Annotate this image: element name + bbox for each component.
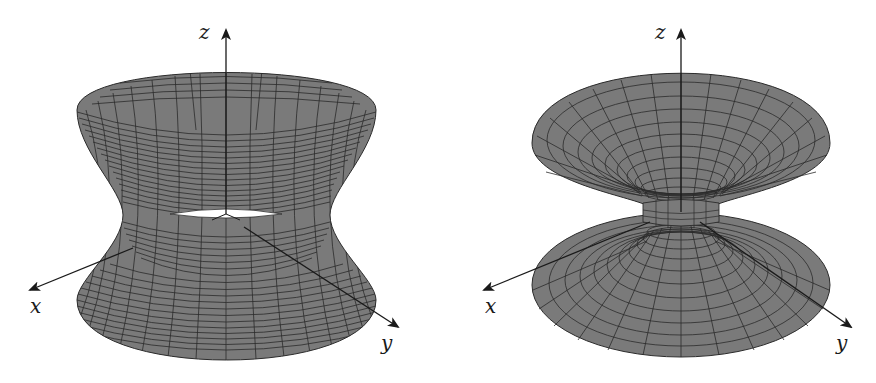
funnel-surface-plot bbox=[438, 0, 876, 383]
z-axis-label: z bbox=[199, 22, 210, 42]
figure-funnel: z x y bbox=[438, 0, 876, 383]
y-axis-label: y bbox=[836, 333, 847, 353]
figure-hyperboloid: z x y bbox=[0, 0, 438, 383]
y-axis-label: y bbox=[381, 333, 392, 353]
hyperboloid-surface-plot bbox=[0, 0, 438, 383]
z-axis-label: z bbox=[655, 22, 666, 42]
funnel-lower-sheet bbox=[532, 213, 830, 357]
x-axis-label: x bbox=[30, 296, 41, 316]
x-axis-label: x bbox=[485, 296, 496, 316]
